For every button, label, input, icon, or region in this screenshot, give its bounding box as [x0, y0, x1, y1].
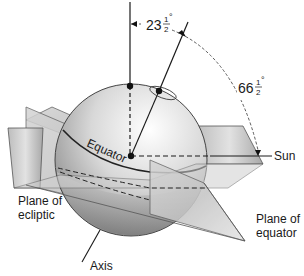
- pole-dot-tilted: [156, 88, 162, 94]
- svg-text:23: 23: [146, 17, 162, 33]
- svg-text:2: 2: [256, 88, 261, 97]
- svg-text:2: 2: [164, 25, 169, 34]
- angle-label-66-5: 66 1 2 °: [237, 75, 271, 100]
- svg-text:°: °: [261, 75, 265, 85]
- plane-of-equator-label-2: equator: [256, 226, 297, 240]
- earth-tilt-diagram: 23 1 2 ° 66 1 2 ° Equator Sun Plane of e…: [0, 0, 304, 276]
- plane-of-ecliptic-label-2: ecliptic: [18, 208, 55, 222]
- angle-label-23-5: 23 1 2 °: [146, 12, 173, 34]
- svg-text:66: 66: [238, 80, 254, 96]
- pole-dot-vertical: [127, 83, 133, 89]
- sun-label: Sun: [274, 149, 295, 163]
- plane-of-equator-label: Plane of: [256, 212, 301, 226]
- plane-of-ecliptic-label: Plane of: [18, 194, 63, 208]
- svg-text:°: °: [169, 12, 173, 22]
- plane-of-ecliptic: [8, 128, 43, 188]
- axis-label: Axis: [90, 259, 113, 273]
